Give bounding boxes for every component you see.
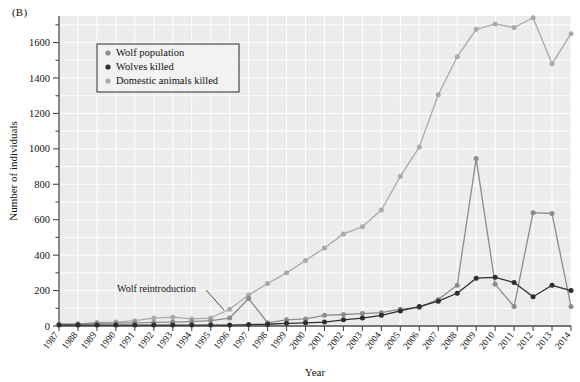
x-axis-ticks: 1987198819891990199119921993199419951996… [41, 326, 573, 351]
data-point [341, 312, 346, 317]
data-point [227, 316, 232, 321]
legend-marker [105, 64, 110, 69]
x-tick-label: 2002 [325, 330, 345, 351]
x-tick-label: 2003 [344, 330, 364, 351]
data-point [493, 282, 498, 287]
x-tick-label: 2013 [534, 330, 554, 351]
x-tick-label: 1993 [155, 330, 175, 351]
y-tick-label: 1600 [29, 37, 50, 48]
y-tick-label: 0 [45, 321, 50, 332]
data-point [227, 323, 232, 328]
data-point [417, 145, 422, 150]
data-point [474, 27, 479, 32]
data-point [132, 323, 137, 328]
y-tick-label: 200 [34, 285, 50, 296]
data-point [569, 31, 574, 36]
data-point [151, 323, 156, 328]
data-point [170, 323, 175, 328]
data-point [455, 54, 460, 59]
x-tick-label: 2004 [363, 330, 383, 351]
data-point [512, 304, 517, 309]
data-point [284, 321, 289, 326]
data-point [531, 294, 536, 299]
y-axis-ticks: 02004006008001000120014001600 [29, 25, 59, 332]
data-point [227, 307, 232, 312]
x-tick-label: 2012 [515, 330, 535, 351]
y-tick-label: 1400 [29, 73, 50, 84]
data-point [360, 311, 365, 316]
x-tick-label: 1990 [98, 330, 118, 351]
data-point [436, 92, 441, 97]
data-point [303, 258, 308, 263]
x-tick-label: 1997 [231, 330, 251, 351]
data-point [512, 25, 517, 30]
data-point [322, 313, 327, 318]
data-point [531, 210, 536, 215]
data-point [455, 291, 460, 296]
x-tick-label: 2014 [553, 330, 573, 351]
y-tick-label: 1000 [29, 143, 50, 154]
annotation-label: Wolf reintroduction [117, 283, 196, 294]
x-tick-label: 2000 [288, 330, 308, 351]
x-tick-label: 2007 [420, 330, 440, 351]
data-point [265, 322, 270, 327]
x-tick-label: 2009 [458, 330, 478, 351]
x-tick-label: 2011 [496, 330, 516, 351]
data-point [474, 156, 479, 161]
y-tick-label: 1200 [29, 108, 50, 119]
data-point [493, 275, 498, 280]
x-tick-label: 2006 [401, 330, 421, 351]
data-point [474, 276, 479, 281]
legend-layer: Wolf populationWolves killedDomestic ani… [97, 44, 239, 92]
data-point [436, 299, 441, 304]
data-point [379, 313, 384, 318]
data-point [550, 211, 555, 216]
x-tick-label: 1991 [117, 330, 137, 351]
legend-label: Wolf population [116, 47, 185, 58]
data-point [398, 308, 403, 313]
data-point [341, 317, 346, 322]
x-tick-label: 1996 [212, 330, 232, 351]
data-point [265, 281, 270, 286]
legend-label: Wolves killed [116, 61, 175, 72]
data-point [360, 316, 365, 321]
data-point [569, 304, 574, 309]
legend-label: Domestic animals killed [116, 75, 219, 86]
data-point [151, 316, 156, 321]
data-point [303, 320, 308, 325]
data-point [531, 15, 536, 20]
y-axis-title: Number of individuals [7, 121, 19, 221]
x-tick-label: 1992 [136, 330, 156, 351]
data-point [75, 323, 80, 328]
x-tick-label: 1994 [174, 330, 194, 351]
data-point [322, 246, 327, 251]
data-point [246, 322, 251, 327]
data-point [170, 315, 175, 320]
x-tick-label: 1987 [41, 330, 61, 351]
data-point [284, 270, 289, 275]
data-point [379, 207, 384, 212]
data-point [341, 231, 346, 236]
x-axis-title: Year [305, 366, 326, 378]
data-point [246, 296, 251, 301]
x-tick-label: 1988 [60, 330, 80, 351]
data-point [550, 61, 555, 66]
data-point [569, 288, 574, 293]
data-point [208, 318, 213, 323]
data-point [322, 320, 327, 325]
y-tick-label: 400 [34, 250, 50, 261]
x-tick-label: 2005 [382, 330, 402, 351]
data-point [455, 283, 460, 288]
x-tick-label: 1995 [193, 330, 213, 351]
x-tick-label: 1998 [250, 330, 270, 351]
x-tick-label: 1999 [269, 330, 289, 351]
data-point [57, 323, 62, 328]
data-point [113, 323, 118, 328]
data-point [94, 323, 99, 328]
x-tick-label: 2001 [306, 330, 326, 351]
legend-marker [105, 50, 110, 55]
data-point [417, 304, 422, 309]
data-point [208, 323, 213, 328]
y-tick-label: 600 [34, 214, 50, 225]
data-point [512, 280, 517, 285]
